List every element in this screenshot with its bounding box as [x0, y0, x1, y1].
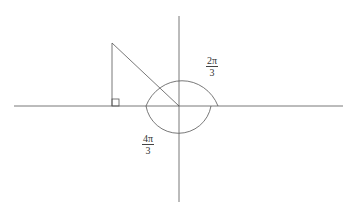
label-denominator: 3	[142, 145, 154, 156]
label-denominator: 3	[206, 67, 218, 78]
diagram-canvas	[0, 0, 349, 214]
triangle-hypotenuse	[112, 43, 179, 106]
lower-angle-arc	[146, 106, 211, 133]
right-angle-marker	[112, 99, 119, 106]
label-numerator: 2π	[206, 55, 218, 67]
label-two-pi-over-three: 2π 3	[206, 55, 218, 78]
upper-angle-arc	[146, 81, 218, 106]
label-four-pi-over-three: 4π 3	[142, 133, 154, 156]
label-numerator: 4π	[142, 133, 154, 145]
